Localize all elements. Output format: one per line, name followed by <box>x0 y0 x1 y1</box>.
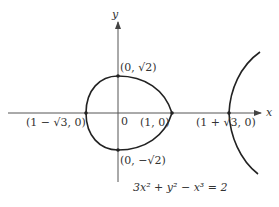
equation-label: 3x² + y² − x³ = 2 <box>133 182 227 193</box>
curve-diagram: y x 0 (0, √2) (1 − √3, 0) (1, 0) (1 + √3… <box>0 0 279 207</box>
point-1-0 <box>170 111 174 115</box>
x-axis-label: x <box>266 107 272 118</box>
point-0-minus-sqrt2 <box>116 148 120 152</box>
origin-label: 0 <box>121 116 128 127</box>
point-1-minus-sqrt3 <box>84 111 88 115</box>
point-1-plus-sqrt3 <box>227 111 231 115</box>
label-1-minus-sqrt3: (1 − √3, 0) <box>26 117 86 128</box>
label-0-minus-sqrt2: (0, −√2) <box>120 155 166 166</box>
label-0-sqrt2: (0, √2) <box>120 62 157 73</box>
point-0-sqrt2 <box>116 74 120 78</box>
label-1-0: (1, 0) <box>140 117 170 128</box>
label-1-plus-sqrt3: (1 + √3, 0) <box>196 117 256 128</box>
y-axis-label: y <box>112 9 118 20</box>
plot-canvas <box>0 0 279 207</box>
